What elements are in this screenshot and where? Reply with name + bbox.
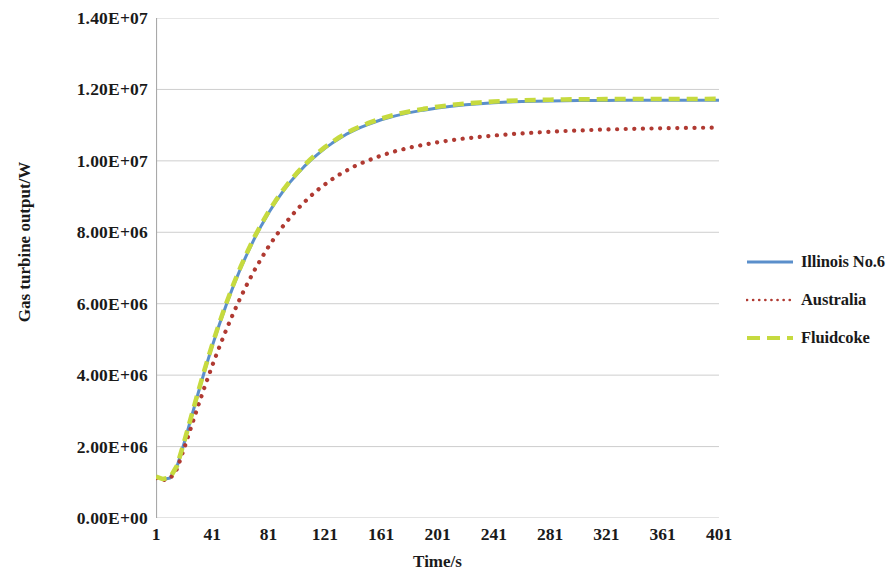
y-axis-title: Gas turbine output/W	[15, 127, 35, 357]
axis-lines	[156, 18, 157, 518]
x-axis-tick-label: 161	[368, 524, 394, 545]
y-axis-tick-label: 2.00E+06	[28, 436, 148, 457]
x-axis-tick-label: 321	[593, 524, 619, 545]
dashed-line-swatch-icon	[746, 331, 794, 345]
x-axis-tick-label: 41	[204, 524, 222, 545]
x-axis-tick-label: 81	[260, 524, 278, 545]
legend-item-fluidcoke: Fluidcoke	[746, 319, 895, 357]
data-series-layer	[156, 99, 719, 480]
solid-line-swatch-icon	[746, 255, 794, 269]
series-line	[156, 99, 719, 479]
y-axis-tick-label: 1.00E+07	[28, 150, 148, 171]
legend-label-fluidcoke: Fluidcoke	[801, 328, 870, 348]
y-axis-tick-label: 8.00E+06	[28, 222, 148, 243]
plot-canvas	[156, 18, 719, 518]
x-axis-tick-label: 241	[481, 524, 507, 545]
legend-item-australia: Australia	[746, 281, 895, 319]
x-axis-tick-label: 121	[312, 524, 338, 545]
legend-item-illinois-no6: Illinois No.6	[746, 243, 895, 281]
x-axis-tick-label: 281	[537, 524, 563, 545]
chart-legend: Illinois No.6 Australia Fluidcoke	[746, 243, 895, 357]
plot-area	[156, 18, 719, 518]
y-axis-tick-label: 1.40E+07	[28, 8, 148, 29]
y-axis-tick-label: 4.00E+06	[28, 365, 148, 386]
x-axis-tick-label: 1	[152, 524, 161, 545]
legend-label-illinois-no6: Illinois No.6	[801, 252, 885, 272]
legend-label-australia: Australia	[801, 290, 866, 310]
x-axis-tick-labels: 14181121161201241281321361401	[156, 524, 719, 552]
x-axis-tick-label: 401	[706, 524, 732, 545]
y-axis-tick-label: 1.20E+07	[28, 79, 148, 100]
y-axis-tick-label: 6.00E+06	[28, 293, 148, 314]
y-axis-tick-labels: 0.00E+002.00E+064.00E+066.00E+068.00E+06…	[18, 0, 148, 582]
x-axis-tick-label: 201	[424, 524, 450, 545]
series-line	[156, 100, 719, 479]
gas-turbine-output-chart: 0.00E+002.00E+064.00E+066.00E+068.00E+06…	[0, 0, 895, 582]
y-axis-tick-label: 0.00E+00	[28, 508, 148, 529]
x-axis-tick-label: 361	[650, 524, 676, 545]
chart-page: 0.00E+002.00E+064.00E+066.00E+068.00E+06…	[0, 0, 895, 582]
dotted-line-swatch-icon	[746, 293, 794, 307]
x-axis-title: Time/s	[156, 552, 719, 572]
